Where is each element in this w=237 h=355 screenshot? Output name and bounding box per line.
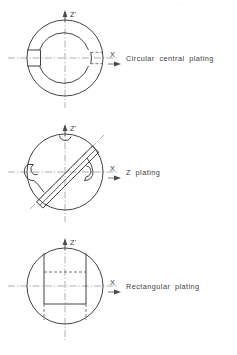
band-lower-edge xyxy=(37,146,93,202)
x-axis-label: X xyxy=(110,278,115,287)
figure-circular-central-plating: Z' X Circular central plating xyxy=(0,0,237,115)
figure-z-plating: Z' X Z plating xyxy=(0,114,237,229)
left-notch-inner xyxy=(28,165,38,175)
z-axis-arrowhead xyxy=(63,10,68,17)
x-axis-arrowhead xyxy=(114,62,121,67)
diagram-sheet: ·· Z' X xyxy=(0,0,237,355)
z-axis-arrowhead xyxy=(63,124,68,131)
figure-caption: Z plating xyxy=(126,168,160,177)
z-axis-label: Z' xyxy=(70,10,77,19)
z-axis-arrowhead xyxy=(63,238,68,245)
x-axis-label: X xyxy=(110,164,115,173)
x-axis-arrowhead xyxy=(114,176,121,181)
figure-caption: Circular central plating xyxy=(126,54,214,63)
x-axis-arrowhead xyxy=(114,290,121,295)
inner-circle-bottom-arc xyxy=(40,66,89,83)
z-axis-label: Z' xyxy=(70,238,77,247)
figure-caption: Rectangular plating xyxy=(126,282,200,291)
z-axis-label: Z' xyxy=(70,124,77,133)
x-axis-label: X xyxy=(110,50,115,59)
inner-circle-top-arc xyxy=(40,33,89,50)
figure-rectangular-plating: Z' X Rectangular plating xyxy=(0,228,237,343)
